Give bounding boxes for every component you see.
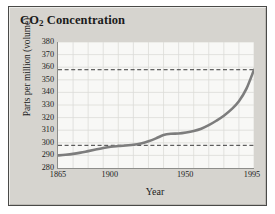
y-axis-tick-label: 360 bbox=[34, 63, 54, 71]
co2-concentration-figure: CO2 Concentration Parts per million (vol… bbox=[0, 0, 275, 214]
x-axis-tick-labels: 1865190019501995 bbox=[57, 171, 253, 183]
dashed-reference-lines bbox=[58, 70, 254, 146]
plot-svg bbox=[58, 42, 254, 168]
y-axis-tick-label: 320 bbox=[34, 114, 54, 122]
y-axis-tick-label: 290 bbox=[34, 151, 54, 159]
x-axis-tick-label: 1950 bbox=[177, 171, 193, 179]
y-axis-tick-label: 310 bbox=[34, 126, 54, 134]
x-axis-label: Year bbox=[57, 186, 253, 197]
y-axis-tick-label: 300 bbox=[34, 139, 54, 147]
x-axis-tick-label: 1995 bbox=[244, 171, 260, 179]
y-axis-tick-label: 350 bbox=[34, 76, 54, 84]
x-axis-tick-label: 1865 bbox=[50, 171, 66, 179]
y-axis-tick-label: 370 bbox=[34, 51, 54, 59]
plot-area bbox=[57, 42, 254, 169]
y-axis-tick-label: 380 bbox=[34, 38, 54, 46]
title-text-concentration: Concentration bbox=[44, 13, 126, 27]
x-axis-tick-label: 1900 bbox=[102, 171, 118, 179]
page-title: CO2 Concentration bbox=[20, 13, 125, 28]
y-axis-label: Parts per million (volume) bbox=[22, 2, 32, 132]
y-axis-tick-label: 340 bbox=[34, 88, 54, 96]
y-axis-tick-labels: 280290300310320330340350360370380 bbox=[34, 42, 54, 168]
y-axis-tick-label: 330 bbox=[34, 101, 54, 109]
